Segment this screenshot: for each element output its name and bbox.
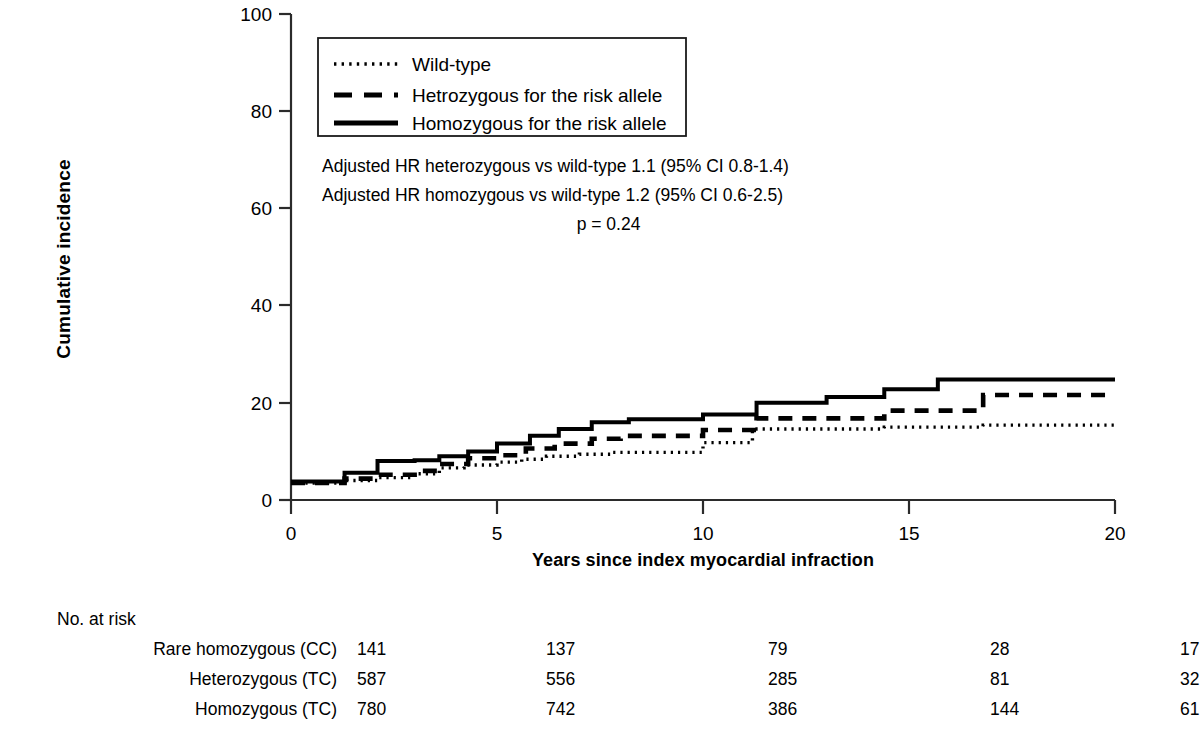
legend-label-heterozygous: Hetrozygous for the risk allele [412, 85, 662, 106]
risk-row-label-homozygous: Homozygous (TC) [0, 694, 337, 724]
risk-value: 32 [1170, 664, 1204, 694]
risk-table-heading: No. at risk [0, 604, 337, 634]
risk-value: 285 [752, 664, 976, 694]
table-row: Heterozygous (TC) 587 556 285 81 32 [0, 664, 1204, 694]
chart-legend: Wild-type Hetrozygous for the risk allel… [318, 38, 686, 136]
x-tick-label-5: 5 [492, 523, 503, 544]
risk-row-label-rare-homozygous: Rare homozygous (CC) [0, 634, 337, 664]
table-row: Rare homozygous (CC) 141 137 79 28 17 [0, 634, 1204, 664]
y-tick-label-40: 40 [251, 295, 272, 316]
risk-value: 141 [337, 634, 528, 664]
risk-value: 81 [976, 664, 1170, 694]
y-tick-label-80: 80 [251, 101, 272, 122]
y-tick-label-100: 100 [240, 4, 272, 25]
x-tick-label-15: 15 [898, 523, 919, 544]
annotation-p-value: p = 0.24 [322, 210, 895, 239]
risk-value: 17 [1170, 634, 1204, 664]
risk-value: 587 [337, 664, 528, 694]
statistics-annotations: Adjusted HR heterozygous vs wild-type 1.… [322, 152, 922, 239]
legend-label-homozygous: Homozygous for the risk allele [412, 113, 667, 134]
risk-row-label-heterozygous: Heterozygous (TC) [0, 664, 337, 694]
cumulative-incidence-chart: 100 80 60 40 20 0 0 5 10 15 20 [0, 0, 1155, 600]
annotation-hr-homozygous: Adjusted HR homozygous vs wild-type 1.2 … [322, 181, 922, 210]
x-tick-marks [291, 500, 1115, 514]
x-tick-label-10: 10 [692, 523, 713, 544]
risk-value: 61 [1170, 694, 1204, 724]
table-row-heading: No. at risk [0, 604, 1204, 634]
number-at-risk-table: No. at risk Rare homozygous (CC) 141 137… [0, 604, 1155, 724]
table-row: Homozygous (TC) 780 742 386 144 61 [0, 694, 1204, 724]
risk-value: 780 [337, 694, 528, 724]
risk-value: 742 [528, 694, 752, 724]
legend-label-wild-type: Wild-type [412, 54, 491, 75]
y-tick-label-20: 20 [251, 393, 272, 414]
y-tick-label-60: 60 [251, 198, 272, 219]
risk-value: 137 [528, 634, 752, 664]
risk-value: 556 [528, 664, 752, 694]
risk-value: 386 [752, 694, 976, 724]
x-axis-title: Years since index myocardial infraction [291, 550, 1115, 571]
x-tick-label-0: 0 [286, 523, 297, 544]
survival-curves [291, 379, 1115, 483]
x-tick-label-20: 20 [1104, 523, 1125, 544]
y-axis-title: Cumulative incidence [53, 109, 75, 409]
risk-value: 28 [976, 634, 1170, 664]
y-tick-marks [279, 14, 291, 500]
risk-value: 79 [752, 634, 976, 664]
curve-heterozygous [291, 395, 1115, 483]
risk-value: 144 [976, 694, 1170, 724]
y-tick-label-0: 0 [261, 490, 272, 511]
annotation-hr-heterozygous: Adjusted HR heterozygous vs wild-type 1.… [322, 152, 922, 181]
